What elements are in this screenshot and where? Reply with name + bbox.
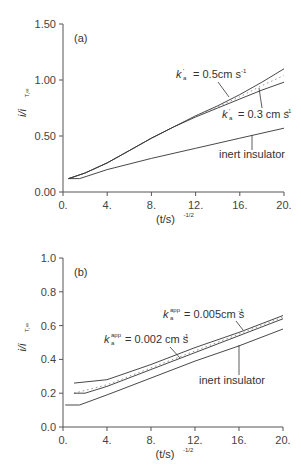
x-axis-label-exponent: -1/2 — [183, 447, 194, 453]
x-tick-label: 16. — [231, 434, 246, 446]
svg-text:k: k — [163, 308, 169, 320]
x-tick-label: 4. — [102, 434, 111, 446]
x-axis-label-exponent: -1/2 — [184, 212, 195, 218]
y-tick-label: 0.00 — [35, 186, 56, 198]
svg-text:-1: -1 — [183, 333, 189, 339]
annotation-inert-insulator: inert insulator — [219, 148, 285, 160]
svg-text:= 0.3 cm s: = 0.3 cm s — [238, 108, 290, 120]
svg-text:a: a — [183, 75, 187, 81]
svg-text:-1: -1 — [286, 108, 292, 114]
y-tick-label: 1.00 — [35, 74, 56, 86]
x-tick-label: 20. — [276, 199, 291, 211]
annotation-inert-insulator: inert insulator — [199, 374, 265, 386]
svg-text:= 0.005cm s: = 0.005cm s — [184, 308, 245, 320]
annotation-k-app-0.002: kappa= 0.002 cm s-1 — [104, 332, 189, 346]
svg-text:-1: -1 — [241, 68, 247, 74]
y-axis-label: i/iT,∞ — [16, 323, 30, 351]
annotation-k-0.5: k'a= 0.5cm s-1 — [176, 68, 247, 81]
x-axis-label: (t/s) — [156, 448, 175, 460]
chart-panel-a: 0.000.501.001.500.4.8.12.16.20.(t/s)-1/2… — [16, 18, 292, 225]
y-tick-label: 1.50 — [35, 18, 56, 30]
series-line — [69, 69, 285, 179]
y-tick-label: 0.50 — [35, 130, 56, 142]
svg-text:k: k — [104, 333, 110, 345]
svg-text:= 0.002 cm s: = 0.002 cm s — [125, 333, 189, 345]
svg-text:k: k — [222, 108, 228, 120]
x-tick-label: 16. — [232, 199, 247, 211]
annotation-k-app-0.005: kappa= 0.005cm s-1 — [163, 307, 245, 321]
y-tick-label: 0.6 — [41, 320, 56, 332]
x-tick-label: 4. — [103, 199, 112, 211]
y-tick-label: 0.2 — [41, 387, 56, 399]
panel-label: (b) — [74, 266, 87, 278]
annotation-k-0.3: k'a= 0.3 cm s-1 — [222, 108, 292, 121]
x-tick-label: 0. — [58, 434, 67, 446]
y-tick-label: 0.4 — [41, 353, 56, 365]
svg-text:': ' — [229, 108, 230, 114]
y-tick-label: 0.0 — [41, 421, 56, 433]
svg-text:app: app — [170, 307, 181, 313]
x-tick-label: 8. — [146, 434, 155, 446]
x-tick-label: 12. — [188, 199, 203, 211]
svg-text:': ' — [183, 68, 184, 74]
svg-text:a: a — [229, 115, 233, 121]
x-tick-label: 8. — [147, 199, 156, 211]
svg-text:i/i: i/i — [16, 343, 28, 352]
x-tick-label: 12. — [187, 434, 202, 446]
series-line — [69, 76, 285, 179]
svg-text:a: a — [170, 315, 174, 321]
svg-text:app: app — [111, 332, 122, 338]
chart-panel-b: 0.00.20.40.60.81.00.4.8.12.16.20.(t/s)-1… — [16, 252, 291, 460]
y-tick-label: 1.0 — [41, 252, 56, 264]
svg-text:T,∞: T,∞ — [24, 89, 30, 98]
y-tick-label: 0.8 — [41, 286, 56, 298]
series-line — [74, 316, 283, 384]
svg-text:-1: -1 — [238, 308, 244, 314]
panel-label: (a) — [74, 32, 87, 44]
svg-text:= 0.5cm s: = 0.5cm s — [193, 68, 241, 80]
svg-text:k: k — [176, 68, 182, 80]
svg-text:T,∞: T,∞ — [24, 323, 30, 332]
series-line — [69, 82, 285, 178]
y-axis-label: i/iT,∞ — [16, 89, 30, 117]
svg-text:a: a — [111, 340, 115, 346]
figure: 0.000.501.001.500.4.8.12.16.20.(t/s)-1/2… — [0, 0, 301, 470]
x-tick-label: 20. — [275, 434, 290, 446]
x-tick-label: 0. — [58, 199, 67, 211]
x-axis-label: (t/s) — [156, 213, 175, 225]
svg-text:i/i: i/i — [16, 108, 28, 117]
